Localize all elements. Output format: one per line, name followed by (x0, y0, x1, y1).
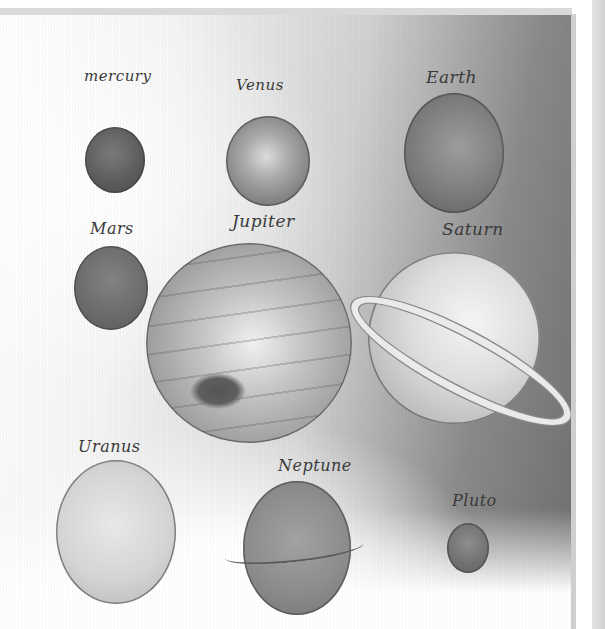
planet-uranus (56, 460, 176, 604)
planet-jupiter (146, 243, 352, 443)
label-pluto: Pluto (452, 491, 497, 510)
page-margin-right (592, 0, 605, 629)
planet-earth (404, 93, 504, 213)
label-saturn: Saturn (442, 219, 504, 239)
planet-mercury (85, 127, 145, 193)
page-edge-top (0, 8, 572, 15)
planet-venus (226, 116, 310, 206)
label-earth: Earth (426, 67, 477, 87)
label-mars: Mars (90, 219, 134, 238)
planet-mars (74, 246, 148, 330)
planet-pluto (447, 523, 489, 573)
label-venus: Venus (236, 76, 284, 94)
label-uranus: Uranus (78, 437, 141, 456)
page-edge-right (571, 14, 576, 629)
label-neptune: Neptune (278, 456, 352, 475)
label-jupiter: Jupiter (232, 211, 295, 231)
label-mercury: mercury (84, 67, 151, 85)
solar-system-illustration: mercury Venus Earth Mars Jupiter Saturn … (0, 15, 571, 629)
